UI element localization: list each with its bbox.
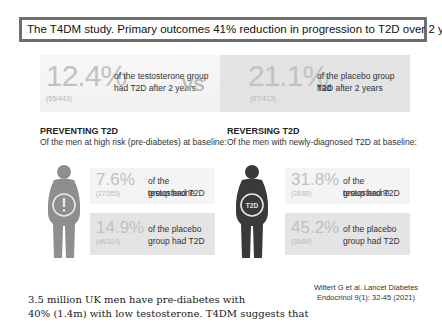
citation: Wittert G et al. Lancet Diabetes Endocri… [296, 283, 436, 303]
citation-line-2: Endocrinol 9(1): 32-45 (2021) [296, 293, 436, 303]
bottom-paragraph: 3.5 million UK men have pre-diabetes wit… [28, 293, 308, 321]
preventing-placebo-pct: 14.9% [96, 218, 144, 238]
reversing-placebo-box: 45.2% (38/84) of the placebo group had T… [285, 213, 410, 255]
reversing-title: REVERSING T2D [227, 126, 300, 136]
reversing-subtitle: Of the men with newly-diagnosed T2D at b… [227, 137, 417, 147]
reversing-testosterone-box: 31.8% (28/88) of the testosterone group … [285, 168, 410, 204]
testosterone-primary-n: (55/443) [46, 95, 72, 102]
reversing-placebo-pct: 45.2% [291, 218, 339, 238]
reversing-placebo-line1: of the placebo [343, 223, 396, 235]
placebo-primary-n: (87/413) [250, 95, 276, 102]
preventing-subtitle: Of the men at high risk (pre-diabetes) a… [40, 137, 227, 147]
preventing-testosterone-n: (27/355) [96, 190, 120, 197]
vs-label: VS [182, 76, 205, 96]
reversing-placebo-line2: group had T2D [343, 235, 400, 247]
title-banner: The T4DM study. Primary outcomes 41% red… [19, 17, 427, 42]
preventing-testosterone-box: 7.6% (27/355) of the testosterone group … [90, 168, 215, 204]
reversing-testosterone-n: (28/88) [291, 190, 312, 197]
preventing-testosterone-line2: group had T2D [148, 187, 205, 199]
preventing-placebo-line2: group had T2D [148, 235, 205, 247]
preventing-placebo-n: (46/329) [96, 238, 120, 245]
placebo-primary-desc-2: T2D after 2 years [317, 82, 383, 94]
t2d-icon-label: T2D [246, 202, 259, 209]
citation-line-1: Wittert G et al. Lancet Diabetes [296, 283, 436, 293]
bottom-line-1: 3.5 million UK men have pre-diabetes wit… [28, 293, 308, 307]
preventing-testosterone-pct: 7.6% [96, 170, 135, 190]
preventing-placebo-box: 14.9% (46/329) of the placebo group had … [90, 213, 215, 255]
reversing-testosterone-pct: 31.8% [291, 170, 339, 190]
person-warning-icon [44, 164, 84, 260]
reversing-testosterone-line2: group had T2D [343, 187, 400, 199]
preventing-title: PREVENTING T2D [40, 126, 118, 136]
bottom-line-2: 40% (1.4m) with low testosterone. T4DM s… [28, 307, 308, 321]
placebo-primary-band: 21.1% (87/413) of the placebo group had … [220, 55, 410, 112]
preventing-placebo-line1: of the placebo [148, 223, 201, 235]
reversing-placebo-n: (38/84) [291, 238, 312, 245]
person-t2d-icon: T2D [232, 164, 272, 260]
